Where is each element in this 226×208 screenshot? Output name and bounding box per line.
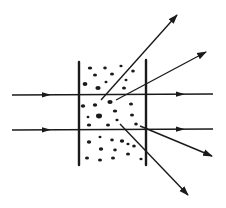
particle <box>87 124 91 127</box>
scattered-rays <box>101 15 212 195</box>
particle <box>103 67 107 70</box>
container-walls <box>79 60 146 165</box>
particle <box>107 100 112 104</box>
particle <box>129 102 133 105</box>
scatter-down-steep <box>120 124 188 195</box>
particle <box>126 143 129 146</box>
particle <box>98 158 102 161</box>
particle <box>93 74 97 77</box>
particle <box>120 139 124 143</box>
particle <box>119 65 122 68</box>
arrow-right-icon <box>42 92 51 97</box>
particle <box>110 72 114 75</box>
particle <box>106 124 110 127</box>
particle <box>111 156 115 159</box>
particle <box>87 116 90 118</box>
particle <box>99 136 102 138</box>
scatter-up-shallow <box>116 52 206 100</box>
particle <box>110 139 114 142</box>
particle <box>99 147 103 150</box>
particle <box>130 113 134 116</box>
particle <box>134 123 138 126</box>
particle <box>132 145 136 148</box>
particle <box>87 140 91 144</box>
particle <box>105 81 108 83</box>
particle <box>95 86 100 90</box>
arrow-right-icon <box>176 127 185 132</box>
particle-cloud <box>81 65 143 162</box>
particle <box>83 82 88 86</box>
particle <box>88 66 92 69</box>
diagram-canvas <box>0 0 226 208</box>
scattering-diagram <box>0 0 226 208</box>
arrow-right-icon <box>42 127 51 132</box>
particle <box>122 86 126 89</box>
particle <box>126 152 130 155</box>
particle <box>139 158 142 161</box>
particle <box>131 70 135 73</box>
particle <box>115 119 118 122</box>
particle <box>113 109 117 112</box>
particle <box>113 149 117 152</box>
particle <box>125 79 128 82</box>
particle <box>81 104 85 108</box>
particle <box>93 103 97 107</box>
particle <box>85 156 89 159</box>
particle <box>96 114 102 119</box>
arrow-right-icon <box>176 92 185 97</box>
incident-beams <box>12 92 213 133</box>
